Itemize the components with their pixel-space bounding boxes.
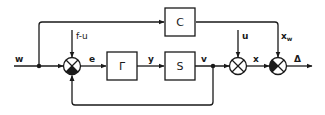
label-f-u: f-u [76,31,88,41]
label-s: S [177,60,184,73]
label-y: y [148,54,154,64]
signal-line-xw [196,22,278,57]
label-c: Γ [119,60,126,73]
summing-junction-3 [270,58,287,75]
label-gamma: C [176,16,184,29]
summing-junction-1 [64,58,81,75]
label-u: u [242,31,248,41]
label-e: e [89,54,95,64]
summing-junction-2 [230,58,247,75]
label-x: x [253,54,259,64]
label-xw: xw [281,31,293,42]
label-v: v [201,54,207,64]
label-w: w [15,54,23,64]
signal-line-w-to-gamma [39,22,164,66]
block-diagram: w f-u e Γ y S C v u x xw Δ [0,0,325,115]
label-delta: Δ [294,54,301,64]
